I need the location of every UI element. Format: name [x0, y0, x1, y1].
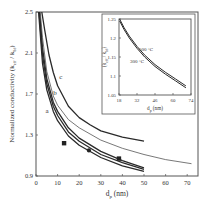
- x-tick-label: 50: [141, 179, 148, 186]
- x-axis-label: dp (nm): [106, 189, 129, 199]
- x-tick-label: 70: [184, 179, 191, 186]
- y-tick-label: 1.7: [25, 90, 34, 97]
- x-tick-label: 46: [153, 98, 158, 103]
- y-tick-label: 1.1: [110, 74, 117, 79]
- y-tick-label: 2.5: [25, 8, 33, 15]
- annotation-label: c: [59, 73, 62, 81]
- y-tick-label: 0.9: [25, 172, 33, 179]
- y-tick-label: 1.3: [25, 131, 33, 138]
- x-tick-label: 60: [171, 98, 176, 103]
- x-tick-label: 74: [189, 98, 194, 103]
- x-tick-label: 32: [135, 98, 140, 103]
- x-tick-label: 60: [162, 179, 169, 186]
- annotation-label: a: [45, 107, 49, 115]
- y-tick-label: 1.05: [108, 93, 117, 98]
- annotation-label: b: [53, 89, 57, 97]
- x-tick-label: 18: [117, 98, 122, 103]
- chart: 0102030405060700.91.31.72.12.5cbadp (nm)…: [0, 0, 207, 205]
- y-tick-label: 1.15: [108, 55, 117, 60]
- y-tick-label: 1.25: [108, 17, 117, 22]
- y-tick-label: 2.1: [25, 49, 33, 56]
- data-point-square: [62, 141, 66, 145]
- x-tick-label: 30: [98, 179, 105, 186]
- y-tick-label: 1.2: [110, 36, 117, 41]
- x-tick-label: 20: [76, 179, 83, 186]
- annotation-label: 500 °C: [139, 47, 154, 52]
- annotation-label: 300 °C: [130, 59, 145, 64]
- y-axis-label: Normalized conductivity (keff / kbf): [8, 45, 17, 143]
- x-tick-label: 40: [119, 179, 126, 186]
- inset-plot: 18324660741.051.11.151.21.25500 °C300 °C…: [101, 14, 195, 114]
- data-point-circle: [87, 148, 91, 152]
- x-tick-label: 10: [54, 179, 61, 186]
- x-tick-label: 0: [34, 179, 37, 186]
- data-point-square: [117, 156, 121, 160]
